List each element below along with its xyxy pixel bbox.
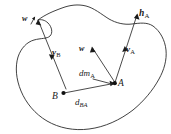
- omega-mid-arrowhead: [90, 47, 96, 53]
- distance-ba-vector: [64, 84, 114, 94]
- omega-left-label: w: [22, 15, 27, 23]
- point-b-label: B: [52, 92, 58, 102]
- omega-left-arrowhead: [36, 20, 42, 26]
- omega-mid-vector: [93, 48, 116, 83]
- mass-element-a-label: dmA: [79, 69, 95, 78]
- velocity-a-label: vA: [126, 45, 135, 54]
- distance-ba-label: dBA: [75, 98, 87, 107]
- angular-momentum-a-label: hA: [139, 9, 149, 19]
- point-b-dot: [61, 91, 65, 95]
- omega-mid-label: w: [79, 45, 84, 53]
- mechanics-diagram-figure: w w vB vA hA dmA A B dBA: [0, 0, 171, 134]
- mass-element-a-leader: [93, 79, 112, 84]
- velocity-b-label: vB: [52, 48, 60, 57]
- point-a-label: A: [118, 79, 124, 89]
- point-a-dot: [113, 81, 117, 85]
